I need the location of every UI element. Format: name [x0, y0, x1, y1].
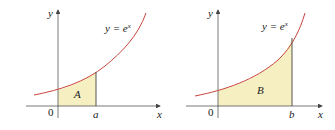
panel-a: y x 0 a A y = ex — [26, 7, 162, 120]
bound-label-a: a — [93, 108, 99, 120]
region-label-b: B — [257, 84, 264, 96]
x-axis-label: x — [317, 108, 323, 120]
origin-label: 0 — [48, 106, 54, 118]
diagram: y x 0 a A y = ex y x 0 b B y = ex — [0, 0, 335, 130]
y-axis-label: y — [47, 7, 53, 19]
curve-label: y = ex — [261, 20, 289, 32]
origin-label: 0 — [208, 106, 214, 118]
y-axis-label: y — [207, 7, 213, 19]
x-axis-label: x — [156, 108, 162, 120]
bound-label-b: b — [289, 108, 295, 120]
region-b-fill — [218, 38, 292, 106]
region-label-a: A — [73, 88, 81, 100]
panel-b: y x 0 b B y = ex — [186, 7, 323, 120]
curve-label: y = ex — [104, 22, 132, 34]
